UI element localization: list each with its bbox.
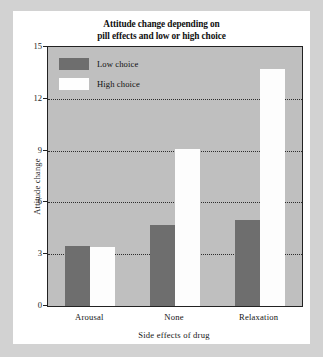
y-tick-mark-15 (43, 46, 47, 47)
y-tick-label-0: 0 (38, 300, 42, 310)
bar-arousal-low-choice (65, 246, 90, 306)
x-axis-title: Side effects of drug (47, 330, 301, 340)
chart-title-line-2: pill effects and low or high choice (13, 31, 310, 43)
x-tick-label-relaxation: Relaxation (239, 312, 278, 322)
legend: Low choice High choice (59, 56, 140, 96)
bar-relaxation-high-choice (260, 69, 285, 306)
chart-title-line-1: Attitude change depending on (103, 19, 219, 29)
bar-none-high-choice (175, 149, 200, 306)
x-tick-label-arousal: Arousal (75, 312, 104, 322)
chart-title: Attitude change depending on pill effect… (13, 19, 310, 42)
y-tick-label-9: 9 (38, 145, 42, 155)
y-tick-mark-6 (43, 201, 47, 202)
bar-relaxation-low-choice (235, 220, 260, 306)
legend-swatch-high-choice (59, 78, 89, 90)
chart-page: Attitude change depending on pill effect… (0, 0, 323, 357)
y-tick-mark-9 (43, 150, 47, 151)
legend-swatch-low-choice (59, 58, 89, 70)
y-tick-label-12: 12 (33, 93, 42, 103)
y-tick-label-3: 3 (38, 248, 42, 258)
y-tick-label-15: 15 (33, 41, 42, 51)
y-tick-mark-3 (43, 253, 47, 254)
chart-card: Attitude change depending on pill effect… (13, 11, 310, 344)
y-tick-label-6: 6 (38, 196, 42, 206)
legend-item-low-choice: Low choice (59, 56, 140, 71)
x-tick-label-none: None (164, 312, 183, 322)
y-tick-mark-0 (43, 305, 47, 306)
legend-item-high-choice: High choice (59, 76, 140, 91)
legend-label-low-choice: Low choice (97, 59, 138, 69)
bar-none-low-choice (150, 225, 175, 306)
plot-area: Low choice High choice (47, 46, 303, 307)
legend-label-high-choice: High choice (97, 79, 140, 89)
bar-arousal-high-choice (90, 247, 115, 306)
y-tick-mark-12 (43, 98, 47, 99)
